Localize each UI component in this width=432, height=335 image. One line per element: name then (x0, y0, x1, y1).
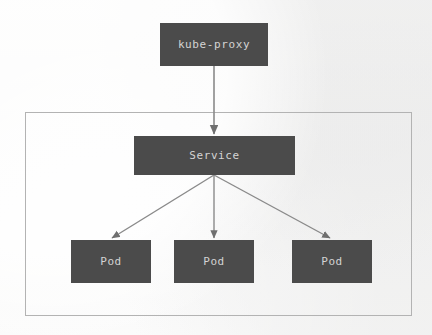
node-pod-3[interactable]: Pod (292, 240, 372, 283)
edge-service-to-pod-1 (112, 175, 214, 238)
node-pod-3-label: Pod (321, 256, 343, 267)
node-kube-proxy[interactable]: kube-proxy (160, 23, 268, 66)
node-pod-2-label: Pod (203, 256, 225, 267)
node-pod-1-label: Pod (100, 256, 122, 267)
node-service-label: Service (189, 150, 240, 161)
node-service[interactable]: Service (134, 136, 295, 175)
node-kube-proxy-label: kube-proxy (178, 39, 250, 50)
node-pod-2[interactable]: Pod (174, 240, 254, 283)
edge-service-to-pod-3 (214, 175, 330, 238)
node-pod-1[interactable]: Pod (71, 240, 151, 283)
